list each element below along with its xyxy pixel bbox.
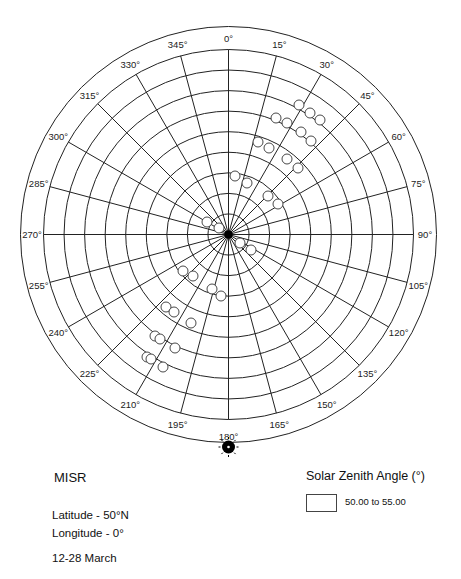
azimuth-tick-label: 330° [120,59,140,70]
azimuth-tick-label: 345° [168,39,188,50]
data-point [188,271,198,281]
data-point [263,191,273,201]
data-point [273,199,283,209]
data-point [282,154,292,164]
azimuth-tick-label: 165° [270,419,290,430]
data-point [230,171,240,181]
azimuth-spoke [50,187,229,235]
polar-grid [21,27,437,443]
azimuth-tick-label: 45° [360,90,375,101]
data-point [155,334,165,344]
date-range-label: 12-28 March [52,552,117,564]
longitude-label: Longitude - 0° [52,527,124,539]
azimuth-tick-label: 315° [80,90,100,101]
azimuth-tick-label: 240° [48,327,68,338]
azimuth-tick-label: 75° [411,178,426,189]
data-point [146,354,156,364]
data-point [293,163,303,173]
data-point [294,100,304,110]
data-point [202,217,212,227]
azimuth-tick-label: 285° [29,178,49,189]
azimuth-spoke [229,187,408,235]
azimuth-tick-label: 225° [80,368,100,379]
data-point [170,343,180,353]
data-point [158,362,168,372]
azimuth-spoke [229,235,277,414]
data-point [296,127,306,137]
legend-swatch [306,494,337,512]
azimuth-tick-label: 0° [224,33,233,44]
data-point [271,113,281,123]
zenith-center-dot [225,231,233,239]
azimuth-tick-label: 135° [358,368,378,379]
data-point [216,291,226,301]
azimuth-tick-label: 270° [22,229,42,240]
data-point [186,318,196,328]
azimuth-tick-label: 255° [29,280,49,291]
data-point [246,245,256,255]
chart-title: MISR [54,470,87,485]
data-point [315,115,325,125]
azimuth-tick-label: 120° [389,327,409,338]
legend-title: Solar Zenith Angle (°) [306,469,425,483]
azimuth-tick-label: 30° [320,59,335,70]
azimuth-tick-label: 105° [408,280,428,291]
azimuth-tick-label: 90° [418,229,433,240]
azimuth-tick-label: 210° [120,399,140,410]
data-point [207,284,217,294]
polar-plot: 0°15°30°45°60°75°90°105°120°135°150°165°… [0,0,461,579]
data-point [169,307,179,317]
azimuth-spoke [229,235,408,283]
data-point [306,136,316,146]
azimuth-spoke [181,56,229,235]
azimuth-tick-label: 195° [168,419,188,430]
azimuth-tick-label: 15° [272,39,287,50]
data-point [214,223,224,233]
azimuth-tick-label: 300° [48,131,68,142]
legend-entry-label: 50.00 to 55.00 [345,496,406,507]
azimuth-spoke [98,104,229,235]
data-point [264,143,274,153]
data-point [235,238,245,248]
data-point [282,118,292,128]
latitude-label: Latitude - 50°N [52,509,129,521]
azimuth-spoke [50,235,229,283]
data-point [305,108,315,118]
azimuth-tick-label: 150° [317,399,337,410]
azimuth-tick-label: 60° [391,131,406,142]
azimuth-spoke [98,235,229,366]
data-point [242,178,252,188]
data-point [178,266,188,276]
data-point [253,137,263,147]
